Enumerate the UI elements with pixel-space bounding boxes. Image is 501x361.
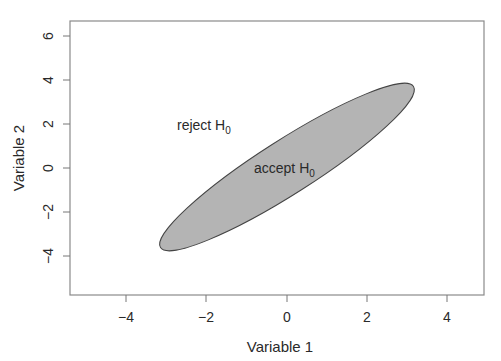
y-tick-label: 4 — [40, 76, 56, 84]
reject-label: reject H0 — [177, 117, 231, 136]
y-tick-label: 6 — [40, 32, 56, 40]
hypothesis-test-chart: reject H0 accept H0 −4 −2 0 2 4 Variable… — [0, 0, 501, 361]
x-tick-label: 4 — [443, 309, 451, 325]
y-tick-label: −2 — [40, 204, 56, 220]
y-axis-label: Variable 2 — [10, 125, 27, 191]
x-axis — [126, 295, 447, 302]
x-tick-label: 0 — [283, 309, 291, 325]
x-tick-labels: −4 −2 0 2 4 — [118, 309, 451, 325]
y-tick-label: 2 — [40, 120, 56, 128]
y-tick-label: −4 — [40, 248, 56, 264]
x-tick-label: −2 — [198, 309, 214, 325]
y-tick-labels: −4 −2 0 2 4 6 — [40, 32, 56, 264]
x-tick-label: 2 — [363, 309, 371, 325]
y-axis — [63, 36, 70, 256]
x-axis-label: Variable 1 — [247, 338, 313, 355]
x-tick-label: −4 — [118, 309, 134, 325]
y-tick-label: 0 — [40, 164, 56, 172]
